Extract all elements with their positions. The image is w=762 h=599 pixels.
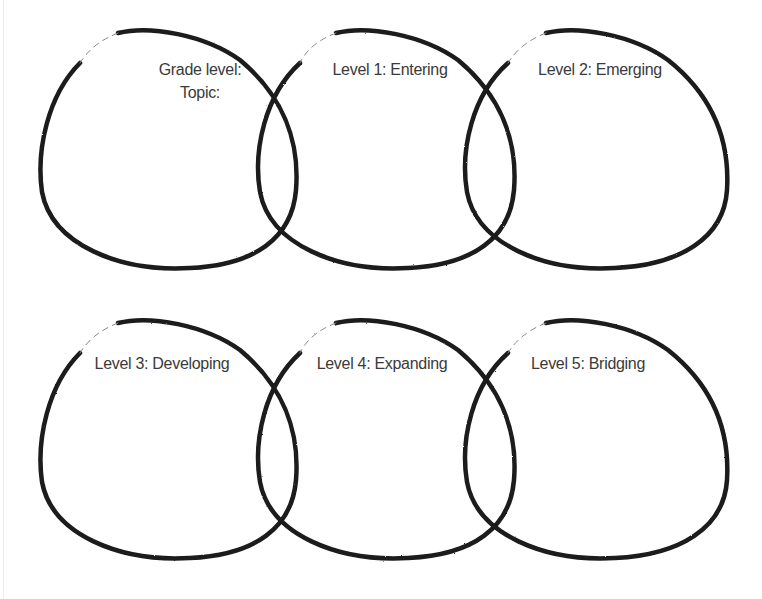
level-4-label: Level 4: Expanding [302,353,462,375]
grade-level-label: Grade level: [120,59,280,81]
level-2-label: Level 2: Emerging [520,59,680,81]
level-5-label: Level 5: Bridging [508,353,668,375]
level-3-label: Level 3: Developing [82,353,242,375]
circle-diagram [0,0,762,599]
topic-label: Topic: [120,82,280,104]
level-1-label: Level 1: Entering [310,59,470,81]
